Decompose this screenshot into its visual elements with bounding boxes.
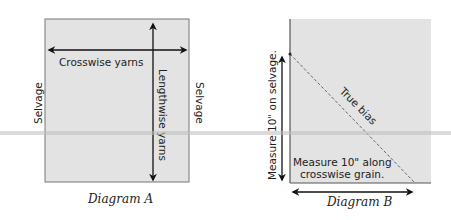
bias-start-dot <box>289 53 292 56</box>
crosswise-label: Crosswise yarns <box>59 56 143 68</box>
caption-a: Diagram A <box>87 192 153 206</box>
diagram-a: Crosswise yarns Lengthwise yarns Selvage… <box>32 19 206 206</box>
fabric-grain-diagrams: Crosswise yarns Lengthwise yarns Selvage… <box>0 0 451 220</box>
horizontal-measure-label-1: Measure 10" along <box>293 156 392 168</box>
right-selvage-label: Selvage <box>194 82 206 124</box>
vertical-measure-label: Measure 10" on selvage. <box>266 50 278 180</box>
left-selvage-label: Selvage <box>32 82 44 124</box>
horizontal-measure-label-2: crosswise grain. <box>300 168 384 180</box>
caption-b: Diagram B <box>326 195 392 209</box>
diagram-b: Measure 10" on selvage. True bias Measur… <box>266 19 431 209</box>
lengthwise-label: Lengthwise yarns <box>157 69 169 161</box>
scan-band <box>0 131 451 135</box>
